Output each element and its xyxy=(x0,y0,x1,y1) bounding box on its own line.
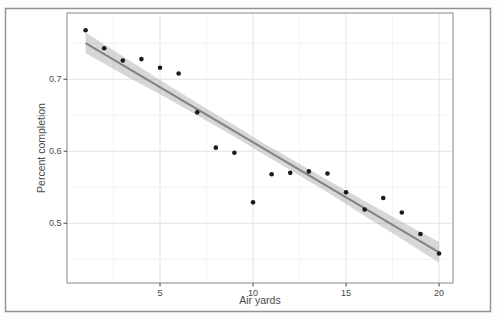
data-point xyxy=(158,65,163,70)
data-point xyxy=(102,46,107,51)
y-tick-label: 0.6 xyxy=(49,146,62,156)
data-point xyxy=(400,210,405,215)
scatter-chart: 5101520 0.50.60.7 Air yards Percent comp… xyxy=(0,0,498,320)
y-axis-title: Percent completion xyxy=(35,103,47,193)
y-tick-label: 0.7 xyxy=(49,74,62,84)
figure-frame: 5101520 0.50.60.7 Air yards Percent comp… xyxy=(0,0,498,320)
data-point xyxy=(381,196,386,201)
data-point xyxy=(325,171,330,176)
data-point xyxy=(176,71,181,76)
data-point xyxy=(83,28,88,33)
data-point xyxy=(344,190,349,195)
data-point xyxy=(269,172,274,177)
x-axis-title: Air yards xyxy=(239,294,280,306)
data-point xyxy=(121,58,126,63)
data-point xyxy=(232,150,237,155)
x-tick-label: 15 xyxy=(341,288,351,298)
data-point xyxy=(437,251,442,256)
data-point xyxy=(362,207,367,212)
x-tick-label: 20 xyxy=(434,288,444,298)
data-point xyxy=(214,145,219,150)
y-tick-label: 0.5 xyxy=(49,218,62,228)
data-point xyxy=(307,169,312,174)
data-point xyxy=(288,171,293,176)
data-point xyxy=(139,57,144,62)
x-tick-label: 5 xyxy=(158,288,163,298)
data-point xyxy=(418,232,423,237)
data-point xyxy=(251,200,256,205)
data-point xyxy=(195,110,200,115)
